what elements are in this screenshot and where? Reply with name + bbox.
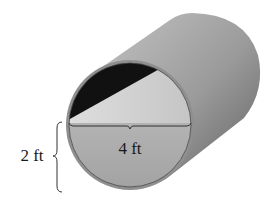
water-depth-label: 2 ft [20,146,43,165]
depth-brace [53,122,62,192]
water-width-label: 4 ft [118,139,141,158]
pipe-diagram: 4 ft 2 ft [0,0,278,209]
